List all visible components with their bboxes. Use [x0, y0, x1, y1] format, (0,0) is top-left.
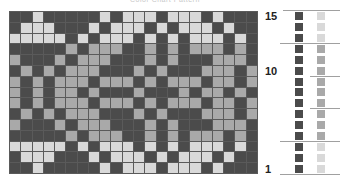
grid-cell — [190, 88, 200, 98]
grid-cell — [111, 120, 121, 130]
divider-line — [310, 76, 340, 77]
grid-cell — [89, 23, 99, 33]
grid-cell — [179, 163, 189, 173]
grid-cell — [134, 109, 144, 119]
color-swatch — [295, 67, 303, 75]
grid-cell — [123, 131, 133, 141]
grid-cell — [21, 152, 31, 162]
grid-cell — [235, 23, 245, 33]
grid-cell — [213, 23, 223, 33]
grid-cell — [168, 44, 178, 54]
color-swatch — [295, 34, 303, 42]
grid-cell — [44, 142, 54, 152]
grid-cell — [44, 109, 54, 119]
grid-cell — [89, 66, 99, 76]
grid-cell — [44, 55, 54, 65]
grid-cell — [168, 131, 178, 141]
grid-cell — [202, 34, 212, 44]
grid-cell — [100, 163, 110, 173]
grid-cell — [44, 23, 54, 33]
grid-cell — [21, 12, 31, 22]
grid-cell — [145, 44, 155, 54]
grid-cell — [235, 44, 245, 54]
grid-cell — [111, 34, 121, 44]
grid-cell — [202, 98, 212, 108]
grid-cell — [111, 12, 121, 22]
grid-cell — [213, 152, 223, 162]
grid-cell — [224, 34, 234, 44]
color-swatch — [295, 78, 303, 86]
grid-cell — [145, 23, 155, 33]
grid-cell — [157, 152, 167, 162]
grid-cell — [123, 34, 133, 44]
grid-cell — [145, 152, 155, 162]
grid-cell — [235, 142, 245, 152]
grid-cell — [89, 163, 99, 173]
grid-cell — [78, 98, 88, 108]
grid-cell — [168, 152, 178, 162]
grid-cell — [157, 88, 167, 98]
grid-cell — [100, 77, 110, 87]
grid-cell — [235, 98, 245, 108]
grid-cell — [247, 131, 257, 141]
grid-cell — [213, 12, 223, 22]
grid-cell — [224, 120, 234, 130]
grid-cell — [78, 131, 88, 141]
grid-cell — [202, 44, 212, 54]
grid-cell — [111, 152, 121, 162]
grid-cell — [55, 12, 65, 22]
grid-cell — [78, 34, 88, 44]
grid-cell — [179, 152, 189, 162]
grid-cell — [123, 88, 133, 98]
grid-cell — [235, 131, 245, 141]
row-number-label: 10 — [265, 65, 277, 77]
grid-cell — [33, 88, 43, 98]
grid-cell — [213, 55, 223, 65]
grid-cell — [123, 44, 133, 54]
grid-cell — [123, 55, 133, 65]
grid-cell — [168, 88, 178, 98]
grid-cell — [66, 12, 76, 22]
grid-cell — [202, 55, 212, 65]
grid-cell — [44, 77, 54, 87]
grid-cell — [44, 88, 54, 98]
grid-cell — [202, 23, 212, 33]
grid-cell — [123, 152, 133, 162]
grid-cell — [202, 109, 212, 119]
grid-cell — [89, 88, 99, 98]
grid-cell — [100, 66, 110, 76]
grid-cell — [111, 77, 121, 87]
grid-cell — [190, 44, 200, 54]
color-swatch — [295, 110, 303, 118]
grid-cell — [89, 98, 99, 108]
grid-cell — [145, 34, 155, 44]
grid-cell — [33, 34, 43, 44]
grid-cell — [157, 142, 167, 152]
grid-cell — [10, 88, 20, 98]
color-swatch — [295, 12, 303, 20]
grid-cell — [247, 23, 257, 33]
color-swatch — [317, 67, 325, 75]
grid-cell — [66, 131, 76, 141]
divider-line — [310, 108, 340, 109]
grid-cell — [179, 34, 189, 44]
grid-cell — [55, 109, 65, 119]
grid-cell — [224, 98, 234, 108]
grid-cell — [190, 120, 200, 130]
grid-cell — [168, 109, 178, 119]
grid-cell — [145, 163, 155, 173]
grid-cell — [55, 23, 65, 33]
grid-cell — [100, 152, 110, 162]
color-swatch — [295, 165, 303, 173]
grid-cell — [157, 163, 167, 173]
grid-cell — [66, 44, 76, 54]
grid-cell — [247, 120, 257, 130]
grid-cell — [10, 66, 20, 76]
grid-cell — [247, 77, 257, 87]
grid-cell — [134, 152, 144, 162]
grid-cell — [55, 34, 65, 44]
contrast-color-column — [295, 11, 303, 174]
grid-cell — [134, 88, 144, 98]
grid-cell — [179, 131, 189, 141]
row-number-label: 1 — [265, 163, 271, 175]
